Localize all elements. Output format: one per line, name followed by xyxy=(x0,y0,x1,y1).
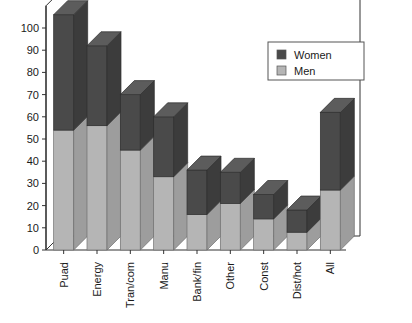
y-axis-tick-label: 60 xyxy=(27,111,39,123)
bar-segment-women-front xyxy=(320,112,340,190)
bar-segment-women-front xyxy=(154,117,174,177)
bar-group xyxy=(154,103,188,250)
legend-swatch xyxy=(277,50,286,59)
bar-group xyxy=(120,81,154,250)
bar-group xyxy=(287,196,321,250)
bar-segment-men-front xyxy=(187,214,207,250)
y-axis-tick-label: 90 xyxy=(27,44,39,56)
bar-segment-men-front xyxy=(287,232,307,250)
bar-segment-women-front xyxy=(220,172,240,203)
bar-segment-women-front xyxy=(54,15,74,130)
bar-segment-women-side xyxy=(107,32,121,126)
bar-segment-women-side xyxy=(340,98,354,190)
x-axis-category-label: Other xyxy=(224,262,236,290)
bar-group xyxy=(220,158,254,250)
x-axis-category-label: Tran/com xyxy=(124,262,136,308)
x-axis-category-label: Manu xyxy=(158,262,170,290)
x-axis-category-label: All xyxy=(324,262,336,274)
y-axis-tick-label: 50 xyxy=(27,133,39,145)
bar-segment-women-front xyxy=(254,195,274,219)
x-axis-category-label: Puad xyxy=(58,262,70,288)
y-axis-tick-label: 100 xyxy=(21,22,39,34)
bar-group xyxy=(320,98,354,250)
x-axis-category-label: Const xyxy=(258,262,270,291)
chart-canvas: 0102030405060708090100PuadEnergyTran/com… xyxy=(0,0,412,323)
y-axis-tick-label: 0 xyxy=(33,244,39,256)
y-axis-tick-label: 40 xyxy=(27,155,39,167)
bar-segment-men-side xyxy=(107,112,121,250)
bar-segment-men-front xyxy=(120,150,140,250)
bar-segment-men-side xyxy=(174,163,188,250)
legend-swatch xyxy=(277,66,286,75)
bar-segment-women-front xyxy=(187,170,207,214)
bar-group xyxy=(187,156,221,250)
legend-label: Men xyxy=(294,65,315,77)
bar-segment-women-side xyxy=(74,1,88,130)
bar-segment-men-front xyxy=(54,130,74,250)
y-axis-tick-label: 10 xyxy=(27,222,39,234)
legend-label: Women xyxy=(294,49,332,61)
bar-segment-men-front xyxy=(220,203,240,250)
bar-group xyxy=(54,1,88,250)
bar-segment-women-front xyxy=(87,46,107,126)
bar-segment-men-front xyxy=(87,126,107,250)
bar-group xyxy=(87,32,121,250)
y-axis-tick-label: 80 xyxy=(27,66,39,78)
bar-segment-men-front xyxy=(254,219,274,250)
bar-segment-men-front xyxy=(154,177,174,250)
bar-segment-men-side xyxy=(74,116,88,250)
bar-group xyxy=(254,181,288,251)
x-axis-category-label: Energy xyxy=(91,262,103,297)
x-axis-category-label: Dist/hot xyxy=(291,262,303,299)
bar-segment-women-front xyxy=(120,95,140,151)
y-axis-tick-label: 20 xyxy=(27,200,39,212)
bar-segment-men-front xyxy=(320,190,340,250)
x-axis-category-label: Bank/fin xyxy=(191,262,203,302)
y-axis-tick-label: 30 xyxy=(27,177,39,189)
stacked-bar-chart: 0102030405060708090100PuadEnergyTran/com… xyxy=(0,0,412,323)
bar-segment-men-side xyxy=(140,136,154,250)
bar-segment-women-front xyxy=(287,210,307,232)
y-axis-tick-label: 70 xyxy=(27,89,39,101)
